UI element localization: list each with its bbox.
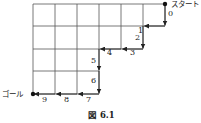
step-label-6: 6 [91, 76, 96, 85]
step-label-7: 7 [86, 95, 91, 104]
step-label-3: 3 [130, 48, 135, 57]
start-point [163, 2, 167, 6]
step-label-5: 5 [91, 56, 96, 65]
step-label-2: 2 [135, 33, 140, 42]
goal-point [31, 92, 35, 96]
step-label-9: 9 [42, 95, 47, 104]
step-labels: 0123456789 [42, 9, 173, 104]
staircase-path-diagram: 0123456789 スタート ゴール 図 6.1 [0, 0, 201, 123]
figure-caption: 図 6.1 [88, 110, 115, 120]
start-label: スタート [171, 0, 199, 9]
step-label-8: 8 [64, 95, 69, 104]
step-label-0: 0 [168, 9, 173, 18]
step-label-4: 4 [107, 48, 112, 57]
goal-label: ゴール [2, 89, 24, 99]
